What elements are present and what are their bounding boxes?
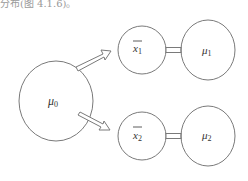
equals-link-2 <box>166 134 181 139</box>
node-xbar1: x1 <box>118 26 166 74</box>
svg-text:μ1: μ1 <box>201 44 212 58</box>
svg-text:μ0: μ0 <box>47 94 58 109</box>
equals-link-1 <box>166 48 181 53</box>
sampling-diagram: μ0 x1 μ1 x2 μ2 <box>0 0 248 181</box>
svg-text:x1: x1 <box>132 42 142 56</box>
node-mu1: μ1 <box>181 20 235 80</box>
node-mu0: μ0 <box>19 61 93 141</box>
arrow-to-sample-1 <box>76 50 111 71</box>
svg-text:μ2: μ2 <box>201 129 212 143</box>
node-mu2: μ2 <box>181 106 235 166</box>
svg-text:x2: x2 <box>132 129 142 143</box>
node-xbar2: x2 <box>118 112 166 160</box>
arrow-to-sample-2 <box>78 112 110 130</box>
